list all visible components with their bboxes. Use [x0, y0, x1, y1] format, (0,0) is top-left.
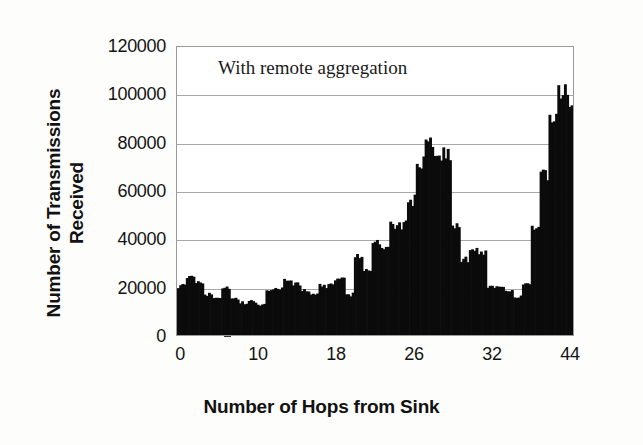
- x-axis-title: Number of Hops from Sink: [0, 396, 643, 418]
- bar-series: [177, 47, 574, 336]
- chart-annotation: With remote aggregation: [218, 57, 407, 79]
- chart-figure: Number of Transmissions Received 0200004…: [0, 0, 643, 445]
- bar: [571, 105, 574, 336]
- x-axis-tick-labels: 01018263244: [176, 344, 574, 374]
- y-tick-mark: [224, 336, 231, 337]
- x-tick-label: 18: [306, 344, 366, 365]
- y-tick-label: 120000: [58, 36, 166, 57]
- x-tick-label: 10: [228, 344, 288, 365]
- x-tick-label: 32: [462, 344, 522, 365]
- y-tick-label: 60000: [58, 181, 166, 202]
- y-axis-tick-labels: 020000400006000080000100000120000: [54, 46, 166, 336]
- x-tick-label: 44: [540, 344, 600, 365]
- x-tick-label: 0: [150, 344, 210, 365]
- plot-area: [176, 46, 574, 336]
- y-tick-label: 100000: [58, 84, 166, 105]
- x-tick-label: 26: [384, 344, 444, 365]
- y-tick-label: 40000: [58, 229, 166, 250]
- y-tick-label: 80000: [58, 132, 166, 153]
- y-tick-label: 20000: [58, 277, 166, 298]
- bar: [573, 112, 574, 336]
